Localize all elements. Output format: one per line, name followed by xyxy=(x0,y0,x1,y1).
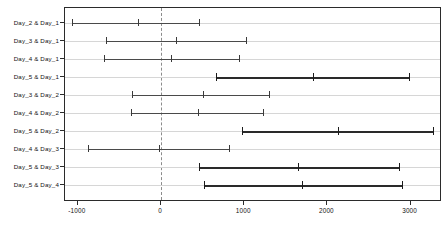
y-axis-tick xyxy=(60,58,64,59)
interval-cap-upper xyxy=(433,127,434,135)
interval-cap-lower xyxy=(88,145,89,152)
interval-center-marker xyxy=(138,19,139,26)
y-axis-tick xyxy=(60,22,64,23)
interval-cap-lower xyxy=(132,91,133,98)
interval-cap-upper xyxy=(199,19,200,26)
x-axis-tick xyxy=(410,201,411,205)
interval-center-marker xyxy=(198,109,199,116)
y-axis-label: Day_5 & Day_1 xyxy=(14,72,59,79)
x-axis-tick-label: 3000 xyxy=(402,207,417,214)
interval-cap-upper xyxy=(239,55,240,62)
y-axis-tick xyxy=(60,40,64,41)
x-axis-tick xyxy=(160,201,161,205)
zero-reference-line xyxy=(161,8,162,200)
y-axis-label: Day_5 & Day_2 xyxy=(14,126,59,133)
interval-cap-upper xyxy=(402,181,403,189)
y-axis-tick xyxy=(60,166,64,167)
interval-center-marker xyxy=(302,181,303,189)
interval-center-marker xyxy=(298,163,299,171)
y-axis-label: Day_3 & Day_1 xyxy=(14,36,59,43)
interval-cap-upper xyxy=(263,109,264,116)
interval-cap-upper xyxy=(246,37,247,44)
x-axis-tick-label: 1000 xyxy=(236,207,251,214)
x-axis-tick xyxy=(77,201,78,205)
interval-cap-lower xyxy=(104,55,105,62)
y-axis-label: Day_4 & Day_1 xyxy=(14,54,59,61)
interval-center-marker xyxy=(338,127,339,135)
interval-center-marker xyxy=(203,91,204,98)
y-axis-label: Day_4 & Day_3 xyxy=(14,144,59,151)
interval-bar xyxy=(132,95,269,96)
interval-cap-lower xyxy=(72,19,73,26)
interval-cap-upper xyxy=(269,91,270,98)
y-axis-label: Day_5 & Day_3 xyxy=(14,162,59,169)
y-axis-label: Day_3 & Day_2 xyxy=(14,90,59,97)
interval-bar xyxy=(199,167,399,168)
interval-cap-upper xyxy=(409,73,410,81)
interval-cap-lower xyxy=(204,181,205,189)
x-axis-tick-label: 2000 xyxy=(319,207,334,214)
interval-cap-lower xyxy=(131,109,132,116)
confidence-interval-plot: Day_2 & Day_1Day_3 & Day_1Day_4 & Day_1D… xyxy=(0,0,448,227)
interval-cap-lower xyxy=(199,163,200,171)
y-axis-tick xyxy=(60,130,64,131)
interval-bar xyxy=(72,23,199,24)
y-axis-tick xyxy=(60,184,64,185)
x-axis-tick-label: 0 xyxy=(158,207,162,214)
interval-center-marker xyxy=(176,37,177,44)
y-axis-tick xyxy=(60,112,64,113)
interval-cap-upper xyxy=(229,145,230,152)
interval-cap-lower xyxy=(242,127,243,135)
y-axis-tick xyxy=(60,148,64,149)
interval-cap-lower xyxy=(216,73,217,81)
interval-center-marker xyxy=(313,73,314,81)
x-axis-tick-label: -1000 xyxy=(68,207,85,214)
x-axis-tick xyxy=(243,201,244,205)
interval-cap-lower xyxy=(106,37,107,44)
interval-center-marker xyxy=(159,145,160,152)
x-axis-tick xyxy=(326,201,327,205)
interval-center-marker xyxy=(171,55,172,62)
y-axis-label: Day_2 & Day_1 xyxy=(14,18,59,25)
y-axis-label: Day_5 & Day_4 xyxy=(14,180,59,187)
y-axis-tick xyxy=(60,76,64,77)
interval-bar xyxy=(131,113,263,114)
plot-area xyxy=(64,7,441,201)
y-axis-tick xyxy=(60,94,64,95)
interval-cap-upper xyxy=(399,163,400,171)
y-axis-label: Day_4 & Day_2 xyxy=(14,108,59,115)
